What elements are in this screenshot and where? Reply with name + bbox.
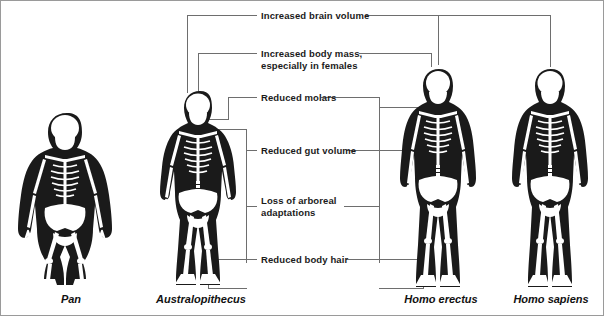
leader-drop-mass-homo-erectus <box>431 53 432 67</box>
leader-line-brain-left <box>187 15 257 16</box>
species-label-australopithecus: Australopithecus <box>141 293 261 305</box>
leader-line-hair-right <box>346 259 379 260</box>
bracket-spine-right <box>379 107 380 260</box>
skeleton-figure-pan <box>15 109 120 287</box>
leader-line-arboreal-right <box>344 206 379 207</box>
annotation-loss-of-arboreal-adaptations: Loss of arboreal adaptations <box>261 195 337 218</box>
skeleton-figure-australopithecus <box>153 89 249 287</box>
annotation-reduced-molars: Reduced molars <box>261 92 336 104</box>
skeleton-figure-homo-sapiens <box>506 67 598 289</box>
species-label-homo-sapiens: Homo sapiens <box>501 293 601 305</box>
leader-line-mass-right <box>359 53 431 54</box>
species-label-homo-erectus: Homo erectus <box>386 293 496 305</box>
hominin-evolution-diagram: Increased brain volume Increased body ma… <box>0 0 604 316</box>
leader-line-mass-left <box>198 53 257 54</box>
bracket-left-bottom-arm <box>208 288 247 289</box>
species-label-pan: Pan <box>26 293 116 305</box>
tick-arboreal-right <box>379 203 380 210</box>
annotation-reduced-gut-volume: Reduced gut volume <box>261 145 356 157</box>
skeleton-figure-homo-erectus <box>394 67 486 289</box>
annotation-increased-body-mass: Increased body mass, especially in femal… <box>261 48 362 71</box>
leader-line-brain-right <box>365 15 551 16</box>
leader-drop-brain-homo-sapiens <box>550 15 551 67</box>
leader-drop-brain-australopithecus <box>187 15 188 93</box>
leader-drop-brain-homo-erectus <box>438 15 439 65</box>
leader-drop-mass-australopithecus <box>198 53 199 93</box>
annotation-reduced-body-hair: Reduced body hair <box>261 254 348 266</box>
annotation-increased-brain-volume: Increased brain volume <box>261 10 369 22</box>
